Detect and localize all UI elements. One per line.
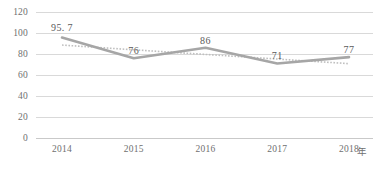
data-label-2017: 71 (272, 50, 283, 61)
data-label-2018: 77 (344, 44, 355, 55)
x-tick-2017: 2017 (267, 144, 287, 154)
x-tick-2014: 2014 (52, 144, 72, 154)
y-tick-0: 0 (23, 133, 28, 143)
y-tick-40: 40 (18, 91, 28, 101)
x-tick-2015: 2015 (124, 144, 144, 154)
series-lines (36, 12, 373, 138)
y-tick-60: 60 (18, 70, 28, 80)
y-axis-ticks: 0 20 40 60 80 100 120 (0, 12, 32, 138)
y-tick-80: 80 (18, 49, 28, 59)
x-axis-ticks: 2014 2015 2016 2017 2018 (36, 144, 373, 166)
x-axis-unit-label: 年 (357, 144, 367, 158)
data-label-2016: 86 (200, 35, 211, 46)
y-tick-100: 100 (13, 28, 28, 38)
data-label-2014: 95. 7 (51, 22, 73, 33)
x-tick-2018: 2018 (339, 144, 359, 154)
y-tick-120: 120 (13, 7, 28, 17)
data-label-2015: 76 (128, 45, 139, 56)
line-chart: 0 20 40 60 80 100 120 95. 7 76 86 71 77 … (0, 0, 381, 175)
y-tick-20: 20 (18, 112, 28, 122)
x-tick-2016: 2016 (196, 144, 216, 154)
x-axis-line (36, 138, 373, 139)
plot-area (36, 12, 373, 138)
